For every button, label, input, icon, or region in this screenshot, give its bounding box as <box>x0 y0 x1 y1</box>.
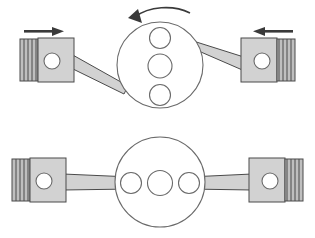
engine-diagram-canvas <box>0 0 315 238</box>
piston-left-bottom <box>12 158 66 202</box>
crank-hole-lower <box>150 85 171 106</box>
crank-hole-center <box>148 171 173 196</box>
bottom-row <box>12 137 303 227</box>
crank-hole-upper <box>150 28 171 49</box>
piston-rings-left-bottom <box>12 159 30 201</box>
piston-right-top <box>241 38 295 82</box>
engine-diagram <box>0 0 315 238</box>
travel-arrow-right-top <box>253 27 293 36</box>
wrist-pin-right-top <box>254 53 270 69</box>
crank-hole-center <box>148 54 172 78</box>
travel-arrow-left-top <box>24 27 64 36</box>
crank-hole-left <box>121 173 142 194</box>
rotation-arrow-counterclockwise <box>128 8 190 23</box>
piston-rings-left-top <box>20 39 38 81</box>
crank-hole-right <box>179 173 200 194</box>
piston-right-bottom <box>249 158 303 202</box>
wrist-pin-right-bottom <box>262 173 278 189</box>
piston-left-top <box>20 38 74 82</box>
wrist-pin-left-top <box>44 53 60 69</box>
piston-rings-right-bottom <box>285 159 303 201</box>
piston-rings-right-top <box>277 39 295 81</box>
top-row <box>20 8 295 108</box>
wrist-pin-left-bottom <box>36 173 52 189</box>
